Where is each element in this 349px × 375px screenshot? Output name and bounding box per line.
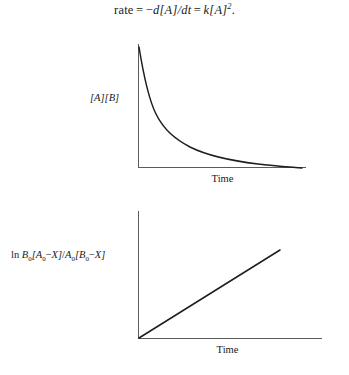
chart2-y-axis-label: ln B0[A0−X]/A0[B0−X] xyxy=(11,249,105,262)
chart-integrated-rate-linear: ln B0[A0−X]/A0[B0−X] Time xyxy=(0,0,349,375)
figure-page: rate=−d[A]/dt=k[A]2. [A][B] Time ln B0[A… xyxy=(0,0,349,375)
chart2-x-axis-label: Time xyxy=(155,344,300,355)
chart2-y-label-close-bracket-2: ] xyxy=(101,249,105,260)
chart2-linear-fit-line xyxy=(139,250,280,338)
chart2-y-label-ln: ln xyxy=(11,249,19,260)
chart2-plot-area xyxy=(138,211,328,341)
